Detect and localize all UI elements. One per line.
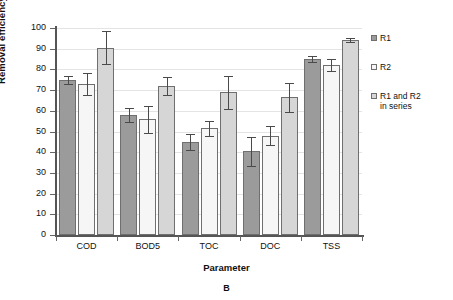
error-bar-cap-lower [266,145,275,146]
y-tick-label: 30 [20,168,46,177]
error-bar-line [289,83,290,112]
error-bar-cap-upper [163,77,172,78]
chart-legend: R1R2R1 and R2 in series [371,33,453,130]
y-tick-label: 0 [20,230,46,239]
error-bar-cap-lower [144,133,153,134]
error-bar-cap-lower [102,64,111,65]
error-bar-line [270,126,271,145]
error-bar-cap-lower [285,112,294,113]
legend-label: R1 [380,33,391,43]
error-bar-line [190,134,191,151]
bar [304,59,321,235]
legend-label: R1 and R2 in series [380,91,421,111]
y-tick-label: 80 [20,64,46,73]
y-tick-mark [50,194,55,195]
error-bar-cap-lower [327,71,336,72]
plot-area [56,28,362,235]
bar [59,80,76,235]
y-tick-label: 60 [20,106,46,115]
error-bar-line [68,76,69,84]
bar [78,84,95,235]
error-bar-line [209,121,210,135]
error-bar-cap-upper [224,76,233,77]
y-tick-mark [50,69,55,70]
x-axis-line [55,235,364,237]
bar [158,86,175,235]
y-axis-title: Removal efficiency (%) [0,0,7,84]
legend-item[interactable]: R1 [371,33,453,43]
bar [220,92,237,235]
x-category-label: TOC [179,241,239,251]
x-category-label: DOC [240,241,300,251]
error-bar-cap-upper [102,31,111,32]
bar [182,142,199,235]
y-tick-mark [50,235,55,236]
error-bar-cap-upper [205,121,214,122]
bar [281,97,298,235]
error-bar-cap-lower [247,166,256,167]
y-tick-mark [50,90,55,91]
bar [262,136,279,235]
bar [201,128,218,235]
grid-line [56,28,362,29]
y-tick-mark [50,49,55,50]
error-bar-line [106,31,107,64]
error-bar-cap-upper [266,126,275,127]
bar [342,40,359,235]
y-axis-line [55,26,57,237]
bar [97,48,114,235]
error-bar-line [251,137,252,166]
error-bar-cap-upper [285,83,294,84]
error-bar-cap-lower [125,122,134,123]
y-tick-mark [50,152,55,153]
y-tick-mark [50,132,55,133]
panel-label: B [0,283,453,293]
bar [120,115,137,235]
error-bar-cap-lower [224,109,233,110]
error-bar-line [228,76,229,109]
y-tick-label: 10 [20,209,46,218]
y-tick-mark [50,111,55,112]
error-bar-cap-upper [327,59,336,60]
error-bar-cap-lower [205,136,214,137]
y-tick-label: 100 [20,23,46,32]
y-tick-label: 90 [20,44,46,53]
y-tick-label: 40 [20,147,46,156]
y-tick-label: 70 [20,85,46,94]
error-bar-cap-lower [308,62,317,63]
error-bar-cap-lower [83,95,92,96]
legend-swatch-icon [371,35,377,41]
legend-swatch-icon [371,93,377,99]
legend-item[interactable]: R2 [371,62,453,72]
y-tick-mark [50,214,55,215]
error-bar-cap-upper [308,56,317,57]
y-tick-label: 20 [20,189,46,198]
error-bar-cap-upper [186,134,195,135]
error-bar-line [148,106,149,133]
legend-item[interactable]: R1 and R2 in series [371,91,453,111]
error-bar-line [129,108,130,122]
error-bar-line [167,77,168,96]
error-bar-cap-upper [83,73,92,74]
error-bar-cap-lower [163,95,172,96]
figure-panel-b: 0102030405060708090100 CODBOD5TOCDOCTSS … [0,0,453,300]
error-bar-cap-lower [186,150,195,151]
x-category-label: COD [57,241,117,251]
bar [323,65,340,235]
error-bar-cap-upper [125,108,134,109]
x-axis-title: Parameter [0,262,453,273]
bar [139,119,156,235]
y-tick-label: 50 [20,127,46,136]
y-tick-mark [50,173,55,174]
legend-swatch-icon [371,64,377,70]
error-bar-line [87,73,88,96]
legend-label: R2 [380,62,391,72]
x-category-label: TSS [301,241,361,251]
error-bar-cap-upper [346,38,355,39]
x-category-label: BOD5 [118,241,178,251]
error-bar-cap-upper [144,106,153,107]
error-bar-cap-lower [346,42,355,43]
y-tick-mark [50,28,55,29]
error-bar-cap-upper [247,137,256,138]
x-tick-mark [362,236,363,241]
